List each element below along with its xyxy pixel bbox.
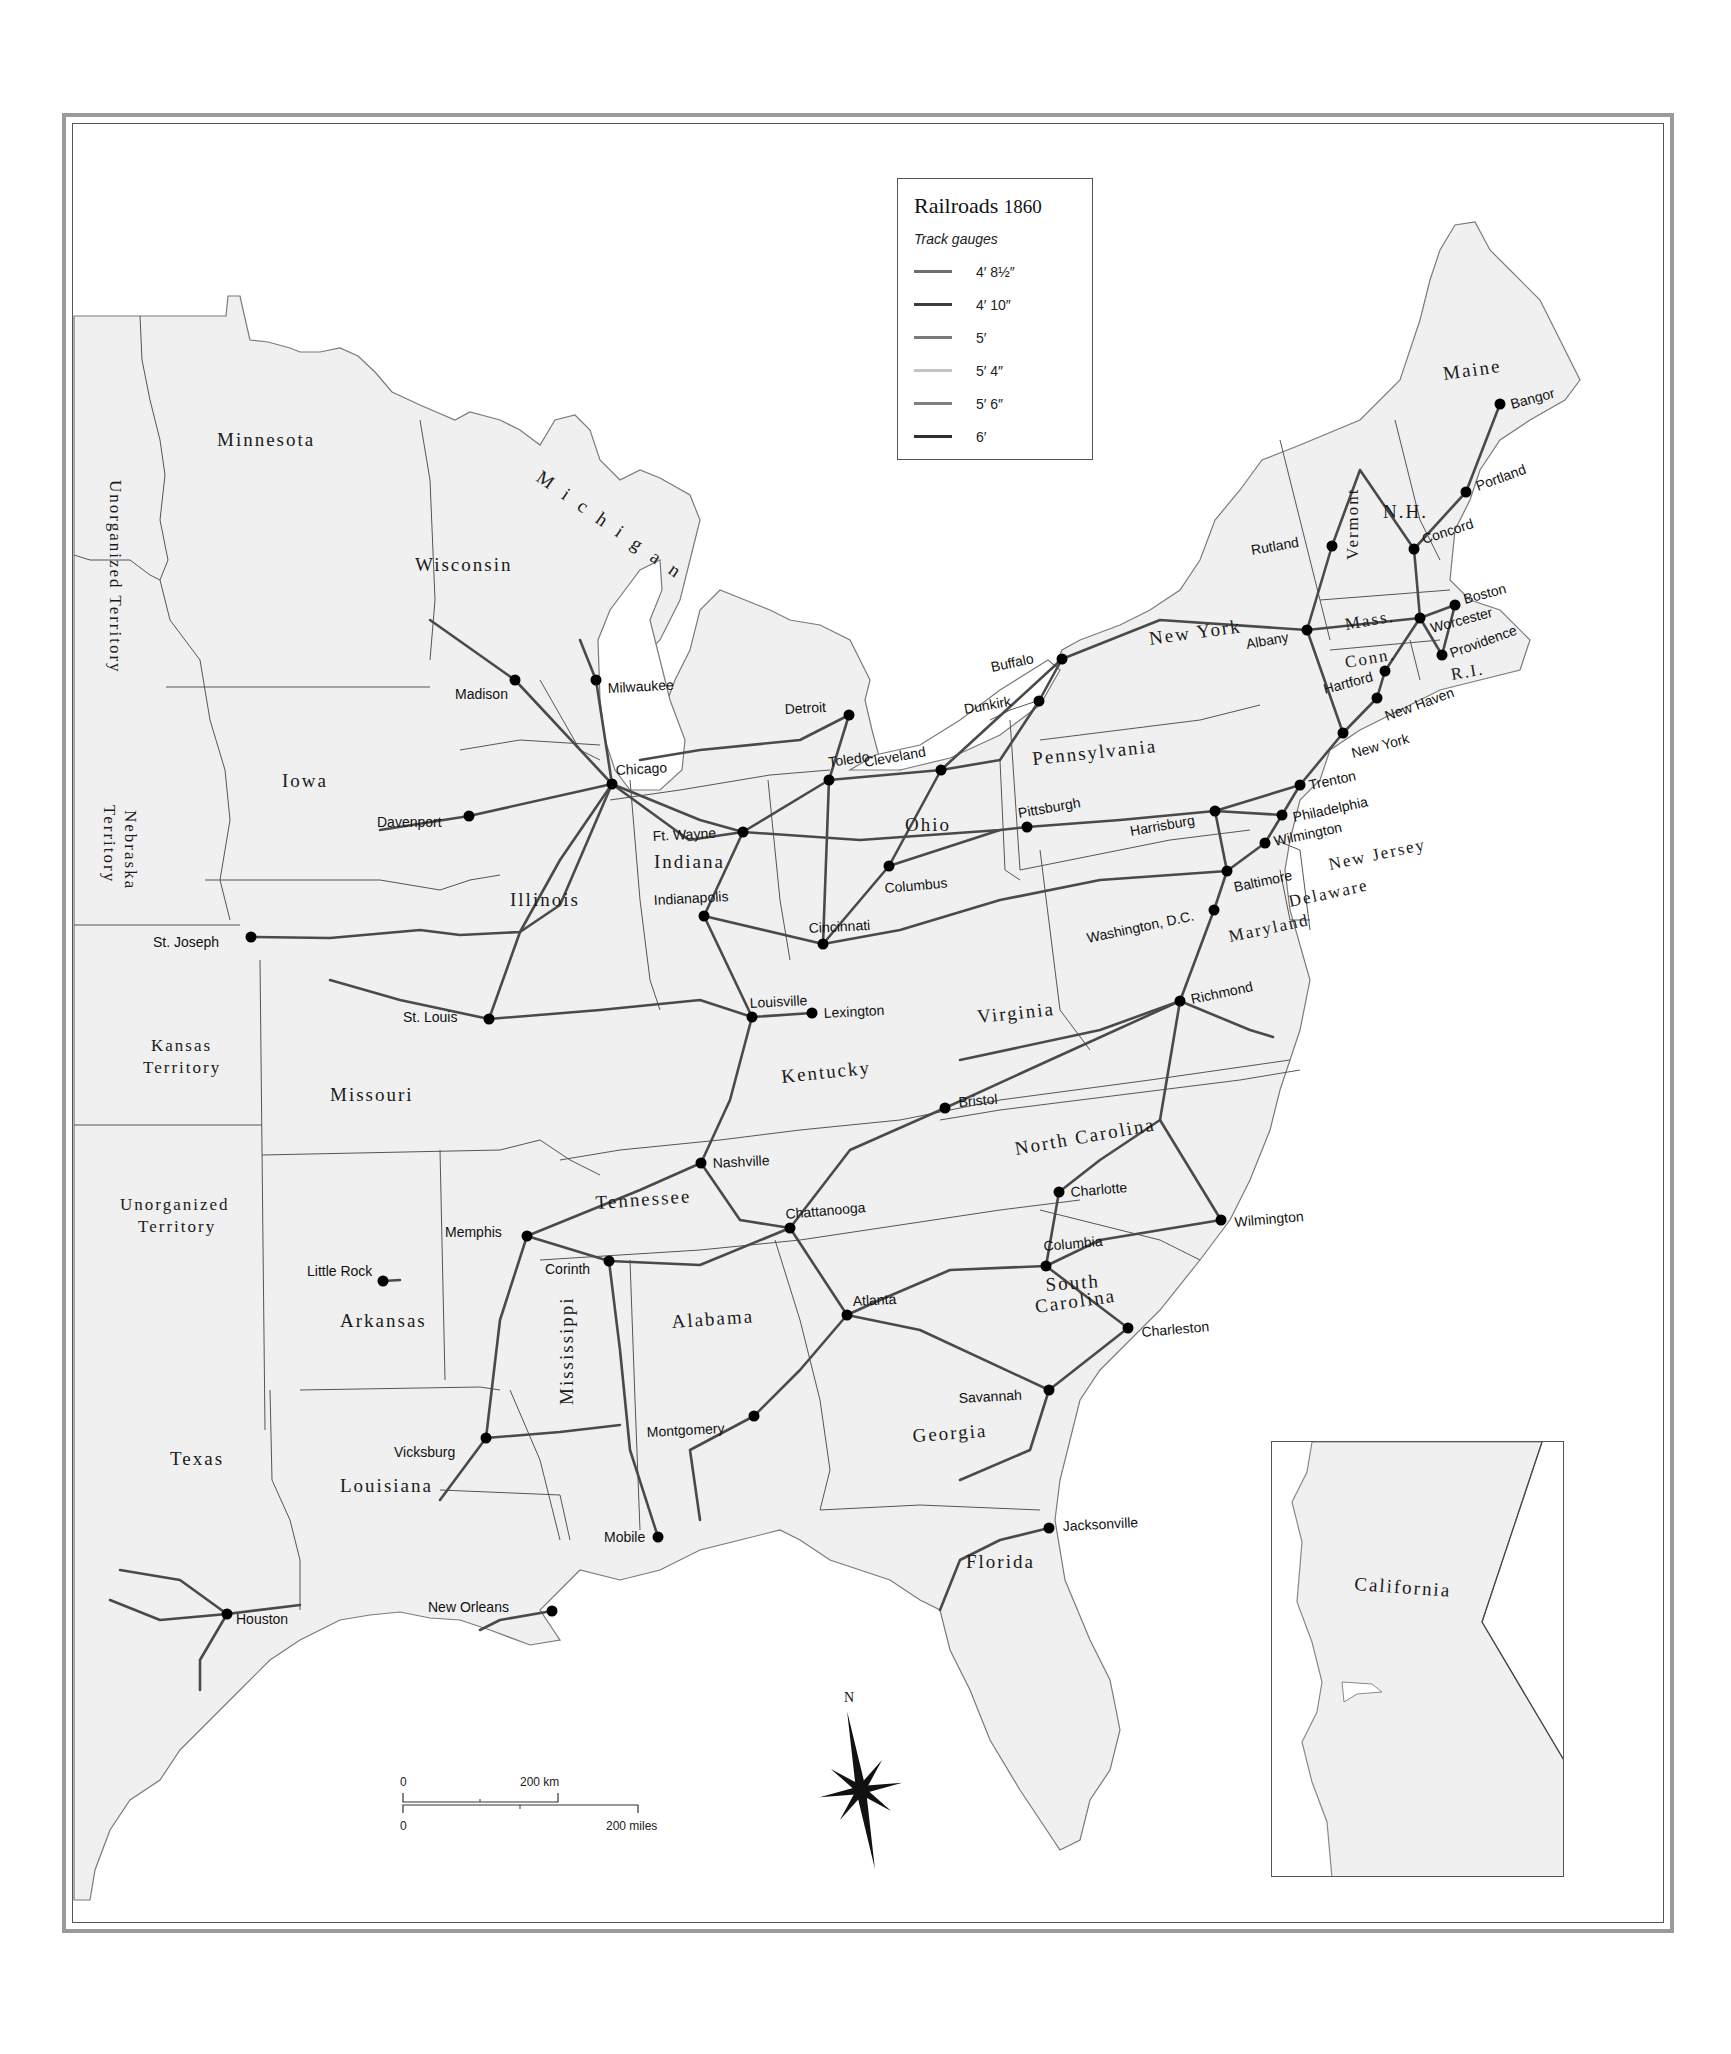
state-label-delaware: Delaware [1287, 875, 1370, 910]
city-dot-icon [1302, 625, 1313, 636]
city-label: New York [1350, 730, 1412, 761]
city-dot-icon [1057, 654, 1068, 665]
city-dot-icon [604, 1256, 615, 1267]
legend-item: 6′ [914, 420, 1076, 453]
city-label: Little Rock [307, 1263, 373, 1279]
city-dot-icon [547, 1606, 558, 1617]
city-dot-icon [464, 811, 475, 822]
city-dot-icon [481, 1433, 492, 1444]
city-label: Nashville [712, 1152, 770, 1171]
city-label: Detroit [784, 699, 826, 717]
city-dot-icon [1216, 1215, 1227, 1226]
city-dot-icon [1372, 693, 1383, 704]
city-dot-icon [484, 1014, 495, 1025]
city-dot-icon [591, 675, 602, 686]
territory-label-unorganized-north: Unorganized Territory [106, 480, 125, 674]
city-dot-icon [378, 1276, 389, 1287]
city-dot-icon [522, 1231, 533, 1242]
city-dot-icon [1295, 780, 1306, 791]
territory-label-unorganized-south-line2: Territory [138, 1217, 216, 1236]
city-dot-icon [1277, 810, 1288, 821]
city-dot-icon [1123, 1323, 1134, 1334]
city-dot-icon [1338, 728, 1349, 739]
legend-subtitle: Track gauges [914, 231, 1076, 247]
city-dot-icon [1380, 666, 1391, 677]
state-label-wisconsin: Wisconsin [415, 554, 512, 575]
city-dot-icon [818, 939, 829, 950]
state-label-new-hampshire: N.H. [1383, 501, 1428, 522]
city-dot-icon [1495, 399, 1506, 410]
state-label-arkansas: Arkansas [340, 1310, 427, 1331]
city-label: Ft. Wayne [652, 825, 716, 844]
city-label: Boston [1462, 580, 1508, 607]
state-label-texas: Texas [170, 1448, 224, 1469]
city-dot-icon [1409, 544, 1420, 555]
legend-line-swatch-icon [914, 369, 952, 372]
city-label: Savannah [958, 1387, 1022, 1406]
scale-bar: 0 200 km 0 200 miles [398, 1775, 698, 1845]
state-label-missouri: Missouri [330, 1084, 414, 1105]
city-dot-icon [1327, 541, 1338, 552]
city-label: Davenport [377, 814, 442, 830]
city-label: Jacksonville [1062, 1514, 1138, 1534]
legend-item: 5′ 6″ [914, 387, 1076, 420]
city-dot-icon [1210, 806, 1221, 817]
city-label: Mobile [604, 1529, 645, 1545]
map-legend: Railroads 1860 Track gauges 4′ 8½″4′ 10″… [897, 178, 1093, 460]
state-label-minnesota: Minnesota [217, 429, 315, 450]
city-dot-icon [844, 710, 855, 721]
legend-item-label: 5′ 4″ [976, 363, 1003, 379]
city-label: Louisville [749, 992, 808, 1011]
city-label: Cincinnati [808, 917, 870, 936]
city-dot-icon [1022, 822, 1033, 833]
legend-title: Railroads 1860 [914, 193, 1076, 219]
city-label: Wilmington [1234, 1208, 1304, 1230]
city-dot-icon [1437, 650, 1448, 661]
city-dot-icon [1044, 1385, 1055, 1396]
legend-item-label: 4′ 8½″ [976, 264, 1015, 280]
city-dot-icon [807, 1008, 818, 1019]
state-label-indiana: Indiana [654, 851, 725, 872]
city-marker: Jacksonville [1044, 1514, 1139, 1534]
legend-item-label: 5′ [976, 330, 986, 346]
city-label: New Orleans [428, 1599, 509, 1615]
legend-line-swatch-icon [914, 435, 952, 438]
city-dot-icon [607, 779, 618, 790]
city-label: Charleston [1141, 1318, 1210, 1340]
city-label: Chicago [615, 759, 667, 778]
legend-item-label: 6′ [976, 429, 986, 445]
city-label: St. Louis [403, 1009, 457, 1025]
city-dot-icon [696, 1158, 707, 1169]
territory-label-kansas-line2: Territory [143, 1058, 221, 1077]
territory-label-nebraska-line1: Nebraska [121, 810, 140, 890]
city-dot-icon [1044, 1523, 1055, 1534]
city-dot-icon [1041, 1261, 1052, 1272]
city-dot-icon [842, 1310, 853, 1321]
city-dot-icon [747, 1012, 758, 1023]
legend-line-swatch-icon [914, 336, 952, 339]
legend-line-swatch-icon [914, 303, 952, 306]
territory-label-nebraska-line2: Territory [100, 805, 119, 883]
scale-mi-start: 0 [400, 1819, 407, 1833]
city-dot-icon [940, 1103, 951, 1114]
legend-item: 4′ 8½″ [914, 255, 1076, 288]
state-label-new-jersey: New Jersey [1327, 835, 1428, 874]
city-dot-icon [1054, 1187, 1065, 1198]
state-label-florida: Florida [966, 1551, 1035, 1572]
city-dot-icon [738, 827, 749, 838]
city-dot-icon [1175, 996, 1186, 1007]
city-dot-icon [1461, 487, 1472, 498]
legend-item: 5′ 4″ [914, 354, 1076, 387]
city-dot-icon [1415, 613, 1426, 624]
city-dot-icon [824, 775, 835, 786]
territory-label-unorganized-south-line1: Unorganized [120, 1195, 230, 1214]
city-label: Vicksburg [394, 1444, 455, 1460]
city-dot-icon [1209, 905, 1220, 916]
city-label: Memphis [445, 1224, 502, 1240]
city-dot-icon [222, 1609, 233, 1620]
city-label: Corinth [545, 1261, 590, 1277]
city-dot-icon [699, 911, 710, 922]
territory-label-kansas-line1: Kansas [151, 1036, 212, 1055]
legend-item-label: 4′ 10″ [976, 297, 1011, 313]
state-label-iowa: Iowa [282, 770, 328, 791]
